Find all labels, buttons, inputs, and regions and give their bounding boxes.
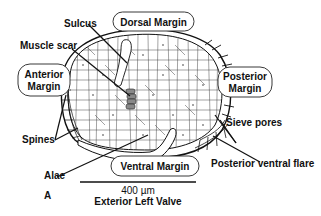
spines-label: Spines [22,134,55,145]
dorsal-margin-text: Dorsal Margin [120,17,187,28]
figure-caption: Exterior Left Valve [94,196,182,207]
dorsal-margin-label: Dorsal Margin [113,12,194,31]
muscle-scar-label: Muscle scar [20,40,77,51]
panel-label: A [44,190,51,201]
anterior-margin-text-2: Margin [28,81,61,92]
alae-label: Alae [44,170,66,181]
posterior-margin-text-2: Margin [229,83,262,94]
sulcus-label: Sulcus [64,18,97,29]
ventral-margin-label: Ventral Margin [111,156,199,176]
anterior-margin-label: Anterior Margin [18,64,70,96]
scale-bar-value: 400 µm [121,185,155,196]
posterior-margin-text-1: Posterior [223,71,267,82]
ostracod-diagram: Dorsal Margin Anterior Margin Posterior … [0,0,321,216]
posterior-margin-label: Posterior Margin [218,67,272,97]
valve-outline [61,29,230,158]
sieve-pores-label: Sieve pores [226,117,283,128]
posterior-ventral-flare-label: Posterior ventral flare [211,158,315,169]
ventral-margin-text: Ventral Margin [121,161,190,172]
anterior-margin-text-1: Anterior [25,69,64,80]
